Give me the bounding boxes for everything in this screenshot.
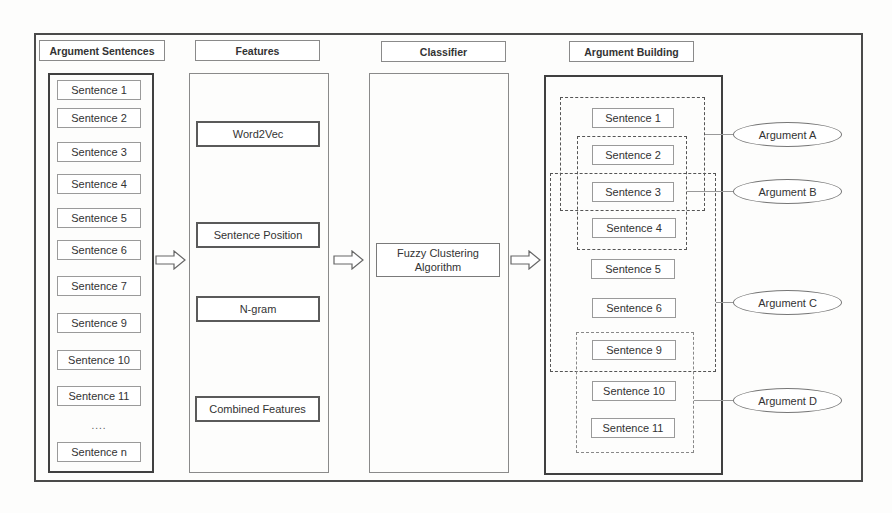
input-sentence: Sentence 6 bbox=[57, 240, 141, 260]
ellipsis: .... bbox=[57, 418, 141, 432]
connector-a bbox=[705, 134, 733, 135]
arrow-right-icon bbox=[510, 250, 542, 270]
input-sentence: Sentence 11 bbox=[57, 386, 141, 406]
argument-a-ellipse: Argument A bbox=[733, 122, 842, 147]
connector-b bbox=[687, 191, 733, 192]
input-sentence: Sentence 2 bbox=[57, 108, 141, 128]
input-sentence: Sentence 3 bbox=[57, 142, 141, 162]
feature-combined: Combined Features bbox=[195, 396, 320, 422]
feature-sentence-position: Sentence Position bbox=[196, 222, 320, 248]
header-argument-sentences: Argument Sentences bbox=[39, 40, 165, 61]
input-sentences-column bbox=[48, 73, 154, 473]
argument-c-ellipse: Argument C bbox=[733, 290, 842, 315]
arrow-right-icon bbox=[333, 250, 365, 270]
fuzzy-line-1: Fuzzy Clustering bbox=[397, 246, 479, 260]
arrow-right-icon bbox=[155, 250, 187, 270]
fuzzy-line-2: Algorithm bbox=[415, 260, 461, 274]
input-sentence: Sentence 5 bbox=[57, 208, 141, 228]
feature-ngram: N-gram bbox=[196, 296, 320, 322]
fuzzy-clustering-box: Fuzzy Clustering Algorithm bbox=[376, 243, 500, 277]
connector-c bbox=[716, 302, 733, 303]
input-sentence: Sentence 1 bbox=[57, 80, 141, 100]
feature-word2vec: Word2Vec bbox=[196, 121, 320, 147]
argument-d-ellipse: Argument D bbox=[733, 388, 842, 413]
group-argument-d bbox=[576, 332, 694, 453]
header-classifier: Classifier bbox=[381, 41, 506, 62]
connector-d bbox=[694, 400, 733, 401]
input-sentence: Sentence 9 bbox=[57, 313, 141, 333]
input-sentence: Sentence 7 bbox=[57, 276, 141, 296]
input-sentence: Sentence 4 bbox=[57, 174, 141, 194]
argument-b-ellipse: Argument B bbox=[733, 179, 842, 204]
header-argument-building: Argument Building bbox=[569, 41, 694, 62]
header-features: Features bbox=[195, 40, 320, 61]
input-sentence: Sentence n bbox=[57, 442, 141, 462]
input-sentence: Sentence 10 bbox=[57, 350, 141, 370]
